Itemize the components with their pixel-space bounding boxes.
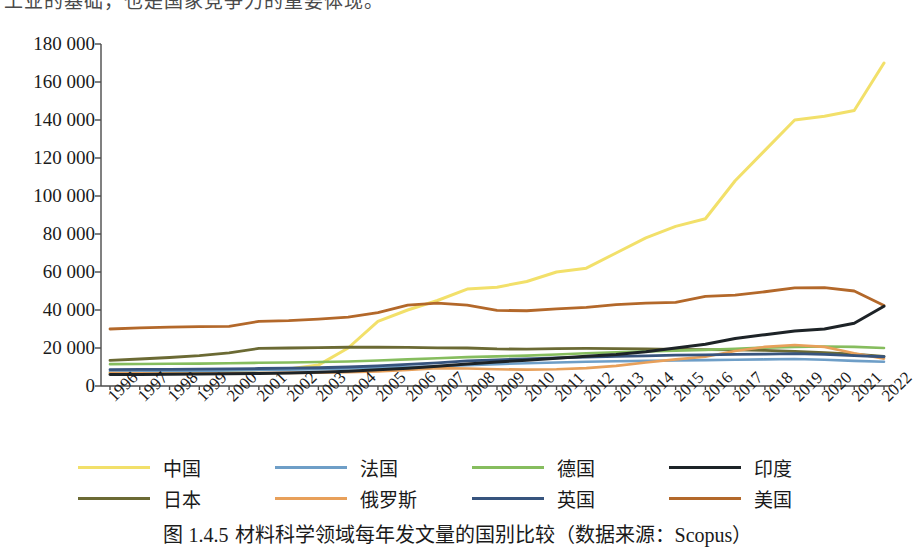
legend-item-russia[interactable]: 俄罗斯 bbox=[275, 485, 472, 512]
legend-line-swatch-uk bbox=[472, 497, 544, 500]
legend-line-swatch-india bbox=[669, 466, 741, 469]
legend-item-germany[interactable]: 德国 bbox=[472, 454, 669, 481]
figure-caption-text: 材料科学领域每年发文量的国别比较（数据来源：Scopus） bbox=[235, 524, 753, 546]
legend-label-france: 法国 bbox=[360, 454, 398, 481]
legend-item-france[interactable]: 法国 bbox=[275, 454, 472, 481]
legend-row: 日本俄罗斯英国美国 bbox=[78, 483, 868, 514]
legend-label-germany: 德国 bbox=[557, 454, 595, 481]
legend-line-swatch-usa bbox=[669, 497, 741, 500]
legend-item-japan[interactable]: 日本 bbox=[78, 485, 275, 512]
page-text-sliver-line: 工业的基础，也是国家竞争力的重要体现。 bbox=[4, 0, 384, 13]
legend-item-uk[interactable]: 英国 bbox=[472, 485, 669, 512]
legend-item-china[interactable]: 中国 bbox=[78, 454, 275, 481]
legend-label-uk: 英国 bbox=[557, 485, 595, 512]
series-line-usa bbox=[110, 288, 884, 329]
legend-line-swatch-russia bbox=[275, 497, 347, 500]
plot-area bbox=[0, 18, 915, 390]
legend-label-japan: 日本 bbox=[163, 485, 201, 512]
legend-line-swatch-germany bbox=[472, 466, 544, 469]
chart-legend: 中国法国德国印度日本俄罗斯英国美国 bbox=[78, 452, 868, 514]
legend-item-india[interactable]: 印度 bbox=[669, 454, 866, 481]
x-axis-tick-labels: 1996199719981999200020012002200320042005… bbox=[0, 390, 915, 452]
legend-row: 中国法国德国印度 bbox=[78, 452, 868, 483]
figure-caption-number: 1.4.5 bbox=[189, 524, 229, 546]
legend-label-china: 中国 bbox=[163, 454, 201, 481]
legend-label-usa: 美国 bbox=[754, 485, 792, 512]
legend-label-india: 印度 bbox=[754, 454, 792, 481]
page-text-sliver: 工业的基础，也是国家竞争力的重要体现。 bbox=[0, 0, 915, 14]
legend-label-russia: 俄罗斯 bbox=[360, 485, 417, 512]
legend-item-usa[interactable]: 美国 bbox=[669, 485, 866, 512]
legend-line-swatch-japan bbox=[78, 497, 150, 500]
figure-container: 工业的基础，也是国家竞争力的重要体现。 180 000160 000140 00… bbox=[0, 0, 915, 557]
figure-caption: 图1.4.5材料科学领域每年发文量的国别比较（数据来源：Scopus） bbox=[0, 519, 915, 548]
legend-line-swatch-france bbox=[275, 466, 347, 469]
figure-caption-prefix: 图 bbox=[163, 524, 183, 546]
legend-line-swatch-china bbox=[78, 466, 150, 469]
line-chart-svg bbox=[0, 18, 915, 390]
